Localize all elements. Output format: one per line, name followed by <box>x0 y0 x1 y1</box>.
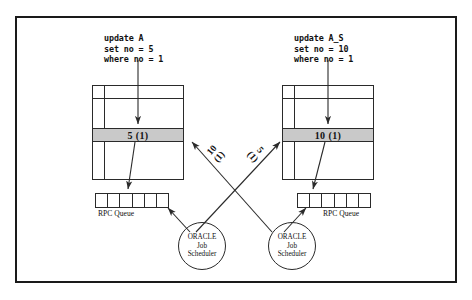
outer-border <box>15 16 457 283</box>
scheduler-line-1: ORACLE <box>188 233 217 242</box>
rpc-queue-label-left: RPC Queue <box>98 209 134 218</box>
oracle-job-scheduler-right: ORACLE Job Scheduler <box>268 222 316 270</box>
queue-cell <box>335 194 347 207</box>
scheduler-line-1: ORACLE <box>278 233 307 242</box>
sql-statement-left: update A set no = 5 where no = 1 <box>104 33 163 65</box>
queue-cell <box>96 194 108 207</box>
scheduler-line-3: Scheduler <box>278 250 307 259</box>
oracle-job-scheduler-left: ORACLE Job Scheduler <box>178 222 226 270</box>
scheduler-line-2: Job <box>287 242 297 251</box>
table-header-divider <box>93 98 183 99</box>
queue-cell <box>310 194 322 207</box>
queue-cell <box>298 194 310 207</box>
database-table-left: 5 (1) <box>92 85 184 180</box>
queue-cell <box>133 194 145 207</box>
sql-statement-right: update A_S set no = 10 where no = 1 <box>294 33 353 65</box>
rpc-queue-label-right: RPC Queue <box>323 209 359 218</box>
scheduler-line-2: Job <box>197 242 207 251</box>
queue-cell <box>108 194 120 207</box>
diagram-canvas: update A set no = 5 where no = 1 5 (1) R… <box>0 0 472 300</box>
queue-cell <box>322 194 334 207</box>
rpc-queue-right <box>297 193 371 208</box>
table-header-divider <box>283 98 373 99</box>
rpc-queue-left <box>95 193 169 208</box>
queue-cell <box>347 194 359 207</box>
database-table-right: 10 (1) <box>282 85 374 180</box>
queue-cell <box>120 194 132 207</box>
highlighted-row-right: 10 (1) <box>283 128 373 142</box>
queue-cell <box>359 194 370 207</box>
scheduler-line-3: Scheduler <box>188 250 217 259</box>
highlighted-row-left: 5 (1) <box>93 128 183 142</box>
queue-cell <box>157 194 168 207</box>
queue-cell <box>145 194 157 207</box>
